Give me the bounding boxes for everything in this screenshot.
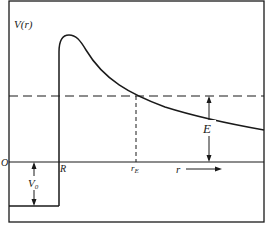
origin-label: O <box>1 157 8 168</box>
r-direction-arrow <box>186 167 222 172</box>
potential-curve <box>59 35 264 206</box>
potential-diagram: V(r) O R rE r E V0 <box>0 0 273 227</box>
energy-label: E <box>202 121 211 136</box>
radius-label: R <box>59 163 66 174</box>
y-axis-label: V(r) <box>14 18 33 31</box>
x-axis-label: r <box>176 163 181 175</box>
turning-point-label: rE <box>131 163 140 175</box>
